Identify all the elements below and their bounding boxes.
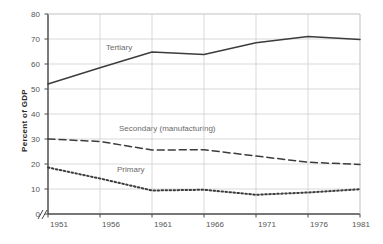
axis-ticks — [45, 14, 361, 218]
gridlines — [48, 14, 360, 214]
chart-canvas — [0, 0, 383, 244]
gdp-sector-share-line-chart: Percent of GDP 80 70 60 50 40 30 20 10 0… — [0, 0, 383, 244]
